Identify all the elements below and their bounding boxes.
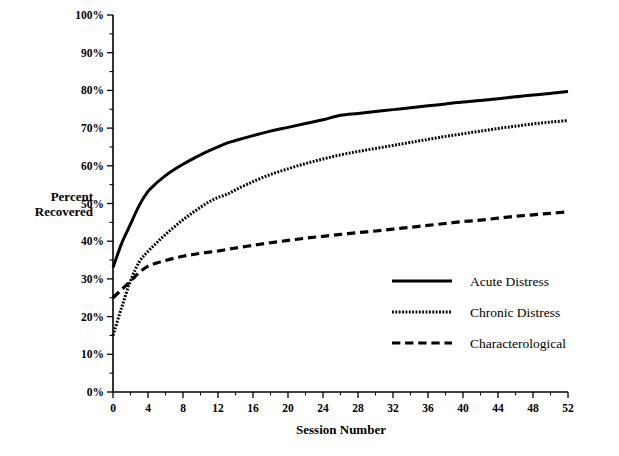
x-tick-label: 36 — [422, 402, 434, 414]
chart-canvas: 0%10%20%30%40%50%60%70%80%90%100% 048121… — [0, 0, 619, 456]
x-tick-label: 4 — [145, 402, 151, 414]
chart-legend: Acute DistressChronic DistressCharactero… — [392, 274, 566, 351]
y-tick-label: 70% — [81, 122, 104, 134]
series-line-chronic-distress — [113, 121, 568, 336]
x-tick-label: 48 — [527, 402, 539, 414]
x-axis-title: Session Number — [296, 422, 386, 437]
y-tick-label: 20% — [81, 311, 104, 323]
series-line-acute-distress — [113, 92, 568, 268]
x-tick-label: 0 — [110, 402, 116, 414]
y-axis-title-line2: Recovered — [35, 204, 94, 219]
y-tick-label: 40% — [81, 235, 104, 247]
y-tick-label: 10% — [81, 348, 104, 360]
x-tick-label: 44 — [492, 402, 504, 414]
y-axis-title-line1: Percent — [51, 189, 94, 204]
x-tick-label: 52 — [562, 402, 574, 414]
x-tick-label: 28 — [352, 402, 364, 414]
x-tick-label: 32 — [387, 402, 399, 414]
x-tick-label: 12 — [212, 402, 224, 414]
x-tick-label: 40 — [457, 402, 469, 414]
chart-figure: 0%10%20%30%40%50%60%70%80%90%100% 048121… — [0, 0, 619, 456]
y-tick-label: 80% — [81, 84, 104, 96]
x-tick-label: 16 — [247, 402, 259, 414]
y-tick-label: 60% — [81, 160, 104, 172]
legend-label-acute-distress: Acute Distress — [470, 274, 549, 289]
y-tick-label: 90% — [81, 47, 104, 59]
x-tick-label: 24 — [317, 402, 329, 414]
legend-label-chronic-distress: Chronic Distress — [470, 305, 560, 320]
y-tick-label: 30% — [81, 273, 104, 285]
y-tick-label: 100% — [75, 9, 104, 21]
x-axis: 0481216202428323640444852 — [110, 392, 574, 414]
x-tick-label: 20 — [282, 402, 294, 414]
legend-label-characterological: Characterological — [470, 336, 566, 351]
y-tick-label: 0% — [87, 386, 104, 398]
data-series-group — [113, 92, 568, 336]
x-tick-label: 8 — [180, 402, 186, 414]
